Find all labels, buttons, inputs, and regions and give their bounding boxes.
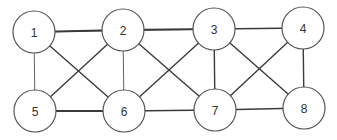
node-label: 1 xyxy=(31,26,38,40)
node-5: 5 xyxy=(14,90,56,132)
node-label: 4 xyxy=(300,22,307,36)
node-3: 3 xyxy=(193,8,235,50)
edges-layer xyxy=(34,28,304,111)
graph-diagram: 12345678 xyxy=(0,0,337,140)
node-4: 4 xyxy=(282,7,324,49)
node-label: 8 xyxy=(301,102,308,116)
node-label: 3 xyxy=(211,23,218,37)
node-label: 6 xyxy=(121,105,128,119)
node-label: 5 xyxy=(32,105,39,119)
node-label: 7 xyxy=(212,104,219,118)
node-8: 8 xyxy=(283,87,325,129)
node-1: 1 xyxy=(13,11,55,53)
node-2: 2 xyxy=(102,9,144,51)
node-6: 6 xyxy=(103,90,145,132)
node-label: 2 xyxy=(120,24,127,38)
node-7: 7 xyxy=(194,89,236,131)
